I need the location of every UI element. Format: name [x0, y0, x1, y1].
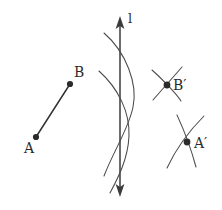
geometry-figure: A B l B′ A′: [0, 0, 222, 210]
point-a-prime-dot: [184, 139, 191, 146]
point-b-label: B: [74, 65, 84, 79]
point-b-prime-label: B′: [173, 78, 186, 92]
point-a-prime-label: A′: [194, 136, 207, 150]
segment-ab: [36, 84, 70, 137]
mirror-line-group: [116, 16, 125, 197]
point-b-dot: [67, 81, 73, 87]
point-a-label: A: [24, 141, 34, 155]
construction-arc-from-b: [104, 33, 134, 176]
figure-canvas: [0, 0, 222, 210]
segment-ab-group: [33, 81, 73, 140]
point-b-prime-dot: [164, 82, 171, 89]
perpendicular-bisector-arcs: [99, 33, 134, 193]
mirror-line-label: l: [128, 12, 132, 25]
